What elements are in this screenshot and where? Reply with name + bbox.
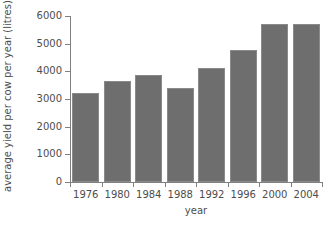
y-axis-tick-label-text: 4000 [28,66,62,76]
y-axis-tick-label-text: 1000 [28,149,62,159]
y-axis-tick-label-text: 3000 [28,94,62,104]
x-axis-tick [70,182,71,187]
bar-1984 [135,75,162,182]
y-axis-tick-label-text: 5000 [28,39,62,49]
y-axis-tick [65,16,71,17]
bar-1988 [167,88,194,182]
x-axis-tick [322,182,323,187]
x-axis-tick-label: 2000 [259,189,291,201]
y-axis-tick-label-text: 6000 [28,11,62,21]
x-axis-tick [259,182,260,187]
bar-1976 [72,93,99,182]
x-axis-tick-label: 1984 [133,189,165,201]
y-axis-tick [65,99,71,100]
y-axis-tick-label: 4000 [28,66,62,76]
y-axis-tick-label: 2000 [28,122,62,132]
x-axis-tick-label: 1992 [196,189,228,201]
x-axis-tick [102,182,103,187]
y-axis-tick [65,71,71,72]
y-axis-tick-label: 6000 [28,11,62,21]
bar-2000 [261,24,288,182]
bar-1996 [230,50,257,182]
x-axis-tick-label: 1988 [165,189,197,201]
y-axis-tick-label: 0 [28,177,62,187]
x-axis-title: year [70,205,322,217]
x-axis-tick [291,182,292,187]
x-axis-tick [196,182,197,187]
y-axis-title: average yield per cow per year (litres) [1,2,15,192]
x-axis-tick [133,182,134,187]
y-axis-tick [65,127,71,128]
x-axis-tick [165,182,166,187]
y-axis-tick [65,44,71,45]
x-axis-tick-label: 1976 [70,189,102,201]
y-axis-tick-label: 5000 [28,39,62,49]
x-axis-tick-label: 2004 [291,189,323,201]
bar-2004 [293,24,320,182]
y-axis-tick-label: 1000 [28,149,62,159]
bar-1992 [198,68,225,182]
bar-1980 [104,81,131,182]
y-axis-tick-label-text: 0 [28,177,62,187]
y-axis-tick [65,154,71,155]
x-axis-tick [228,182,229,187]
y-axis-tick-label: 3000 [28,94,62,104]
x-axis-tick-label: 1996 [228,189,260,201]
x-axis-tick-label: 1980 [102,189,134,201]
y-axis-tick-label-text: 2000 [28,122,62,132]
bar-chart: average yield per cow per year (litres) … [0,0,331,230]
